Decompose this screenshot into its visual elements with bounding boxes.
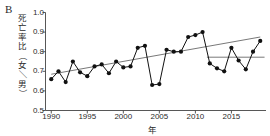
data-point <box>164 48 168 52</box>
data-point <box>150 83 154 87</box>
data-point <box>121 65 125 69</box>
data-point <box>215 66 219 70</box>
series-markers <box>49 30 262 87</box>
data-point <box>200 30 204 34</box>
data-point <box>251 50 255 54</box>
data-point <box>107 71 111 75</box>
data-point <box>258 39 262 43</box>
data-point <box>78 70 82 74</box>
data-point <box>56 69 60 73</box>
data-point <box>64 80 68 84</box>
data-point <box>208 61 212 65</box>
data-point <box>136 46 140 50</box>
data-point <box>85 74 89 78</box>
data-point <box>114 59 118 63</box>
data-point <box>229 46 233 50</box>
data-point <box>71 59 75 63</box>
data-point <box>172 50 176 54</box>
data-point <box>193 33 197 37</box>
data-point <box>186 35 190 39</box>
series-polyline <box>51 32 260 85</box>
data-point <box>100 62 104 66</box>
data-point <box>179 50 183 54</box>
data-point <box>128 64 132 68</box>
data-point <box>244 67 248 71</box>
figure-panel-b: B 死亡率比（女／男） 年 0.50.60.70.80.91.0 1990199… <box>0 0 270 136</box>
plot-area <box>0 0 270 136</box>
data-point <box>237 58 241 62</box>
data-point <box>92 64 96 68</box>
axis-tick-marks <box>43 13 232 114</box>
data-point <box>143 44 147 48</box>
series-line-0 <box>51 32 260 85</box>
annotation-lines <box>51 37 264 74</box>
data-point <box>157 82 161 86</box>
axis-lines <box>46 13 267 111</box>
data-point <box>49 77 53 81</box>
data-point <box>222 69 226 73</box>
